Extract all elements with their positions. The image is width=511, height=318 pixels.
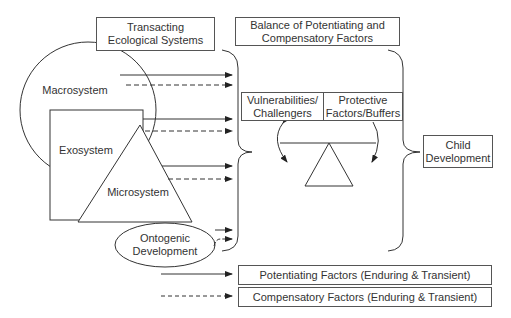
balance-line-1: Balance of Potentiating and bbox=[250, 19, 385, 32]
protective-line-2: Factors/Buffers bbox=[326, 107, 400, 120]
protective-line-1: Protective bbox=[339, 94, 388, 107]
ontogenic-line-2: Development bbox=[120, 245, 210, 258]
child-dev-line-1: Child bbox=[445, 139, 470, 152]
seesaw-fulcrum bbox=[305, 143, 353, 186]
protective-cell: Protective Factors/Buffers bbox=[324, 93, 402, 120]
macrosystem-label: Macrosystem bbox=[40, 84, 110, 97]
balance-header-box: Balance of Potentiating and Compensatory… bbox=[235, 17, 400, 46]
transacting-line-1: Transacting bbox=[127, 21, 184, 34]
right-curved-arrow bbox=[372, 122, 378, 162]
vulnerabilities-line-1: Vulnerabilities/ bbox=[247, 94, 318, 107]
transacting-line-2: Ecological Systems bbox=[108, 34, 203, 47]
ontogenic-label: Ontogenic Development bbox=[120, 232, 210, 258]
right-brace bbox=[388, 50, 420, 251]
transacting-header-box: Transacting Ecological Systems bbox=[96, 17, 215, 51]
microsystem-label: Microsystem bbox=[102, 186, 174, 199]
legend-potentiating: Potentiating Factors (Enduring & Transie… bbox=[238, 265, 492, 285]
vulnerabilities-line-2: Challengers bbox=[253, 107, 312, 120]
child-dev-line-2: Development bbox=[426, 152, 491, 165]
onto-compensatory-arrow bbox=[214, 239, 232, 246]
exosystem-label: Exosystem bbox=[52, 144, 120, 157]
child-development-box: Child Development bbox=[423, 135, 493, 168]
vulnerabilities-cell: Vulnerabilities/ Challengers bbox=[242, 93, 324, 120]
ontogenic-line-1: Ontogenic bbox=[120, 232, 210, 245]
left-brace bbox=[222, 50, 252, 251]
balance-factors-box: Vulnerabilities/ Challengers Protective … bbox=[241, 92, 403, 121]
balance-line-2: Compensatory Factors bbox=[262, 32, 373, 45]
legend-compensatory: Compensatory Factors (Enduring & Transie… bbox=[238, 287, 492, 307]
